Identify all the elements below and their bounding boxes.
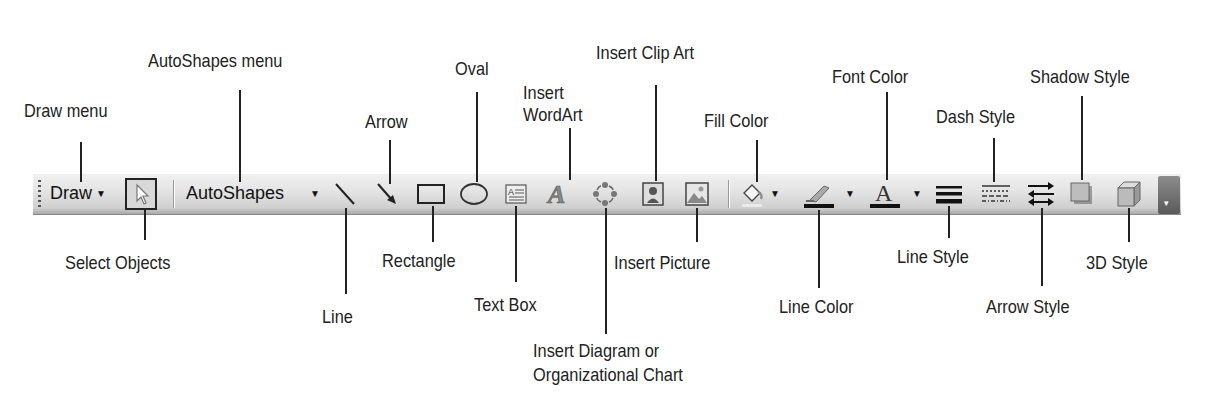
rectangle-icon[interactable] bbox=[416, 182, 448, 206]
toolbar-separator bbox=[728, 180, 730, 208]
label-line: Line bbox=[322, 306, 353, 328]
label-text-box: Text Box bbox=[474, 294, 537, 316]
picture-icon[interactable] bbox=[683, 180, 711, 208]
label-arrow-style: Arrow Style bbox=[986, 296, 1070, 318]
leader-line bbox=[432, 206, 434, 242]
leader-line bbox=[886, 92, 888, 180]
text-box-icon[interactable]: A bbox=[503, 180, 529, 208]
line-style-icon[interactable] bbox=[934, 182, 964, 206]
arrow-icon[interactable] bbox=[374, 180, 400, 208]
label-line-color: Line Color bbox=[779, 296, 853, 318]
3d-style-icon[interactable] bbox=[1114, 178, 1144, 210]
label-dash-style: Dash Style bbox=[936, 106, 1015, 128]
arrow-style-icon[interactable] bbox=[1026, 180, 1056, 208]
clip-art-icon[interactable] bbox=[640, 180, 666, 208]
leader-line bbox=[569, 128, 571, 180]
toolbar-options-chevron-icon: ▾ bbox=[1164, 198, 1174, 208]
leader-line bbox=[80, 142, 82, 182]
label-fill-color: Fill Color bbox=[704, 110, 768, 132]
fill-color-dropdown-icon[interactable]: ▼ bbox=[770, 188, 780, 199]
cursor-arrow-icon bbox=[127, 180, 155, 208]
label-line-style: Line Style bbox=[897, 246, 969, 268]
toolbar-separator bbox=[173, 180, 175, 208]
draw-dropdown-icon: ▼ bbox=[96, 188, 106, 199]
label-3d-style: 3D Style bbox=[1086, 252, 1148, 274]
leader-line bbox=[1041, 208, 1043, 286]
svg-text:A: A bbox=[508, 187, 514, 197]
toolbar-options-button[interactable] bbox=[1158, 176, 1180, 214]
leader-line bbox=[144, 208, 146, 240]
label-diagram-line2: Organizational Chart bbox=[533, 364, 683, 386]
label-rectangle: Rectangle bbox=[382, 250, 456, 272]
select-objects-button[interactable] bbox=[125, 178, 157, 210]
label-arrow: Arrow bbox=[365, 111, 408, 133]
label-shadow-style: Shadow Style bbox=[1030, 66, 1130, 88]
leader-line bbox=[239, 90, 241, 182]
svg-text:A: A bbox=[546, 180, 565, 208]
label-font-color: Font Color bbox=[832, 66, 908, 88]
label-wordart-line1: Insert bbox=[523, 82, 564, 104]
svg-text:A: A bbox=[875, 180, 893, 206]
wordart-icon[interactable]: A bbox=[546, 178, 572, 208]
label-insert-clip-art: Insert Clip Art bbox=[596, 42, 694, 64]
shadow-style-icon[interactable] bbox=[1068, 180, 1096, 208]
label-autoshapes-menu: AutoShapes menu bbox=[148, 50, 282, 72]
leader-line bbox=[345, 208, 347, 294]
label-select-objects: Select Objects bbox=[65, 252, 170, 274]
label-diagram-line1: Insert Diagram or bbox=[533, 340, 659, 362]
line-icon[interactable] bbox=[332, 180, 358, 208]
leader-line bbox=[1128, 208, 1130, 242]
leader-line bbox=[696, 208, 698, 242]
font-color-a-icon[interactable]: A bbox=[868, 178, 902, 210]
label-draw-menu: Draw menu bbox=[24, 100, 108, 122]
label-wordart-line2: WordArt bbox=[523, 104, 583, 126]
autoshapes-dropdown-icon: ▼ bbox=[310, 188, 320, 199]
line-color-dropdown-icon[interactable]: ▼ bbox=[845, 188, 855, 199]
leader-line bbox=[818, 210, 820, 288]
draw-menu-button[interactable]: Draw bbox=[50, 182, 92, 204]
line-color-brush-icon[interactable] bbox=[802, 180, 836, 210]
label-oval: Oval bbox=[455, 58, 489, 80]
leader-line bbox=[1081, 96, 1083, 180]
leader-line bbox=[605, 208, 607, 334]
font-color-dropdown-icon[interactable]: ▼ bbox=[912, 188, 922, 199]
leader-line bbox=[389, 140, 391, 184]
leader-line bbox=[655, 85, 657, 181]
autoshapes-menu-button[interactable]: AutoShapes bbox=[186, 182, 284, 204]
leader-line bbox=[993, 138, 995, 182]
diagram-icon[interactable] bbox=[591, 180, 619, 208]
label-insert-picture: Insert Picture bbox=[614, 252, 710, 274]
fill-color-bucket-icon[interactable] bbox=[738, 180, 766, 208]
leader-line bbox=[756, 140, 758, 182]
leader-line bbox=[515, 206, 517, 282]
dash-style-icon[interactable] bbox=[980, 182, 1012, 206]
leader-line bbox=[476, 92, 478, 182]
leader-line bbox=[948, 206, 950, 238]
oval-icon[interactable] bbox=[459, 182, 491, 206]
toolbar-grip-handle[interactable] bbox=[38, 180, 41, 210]
